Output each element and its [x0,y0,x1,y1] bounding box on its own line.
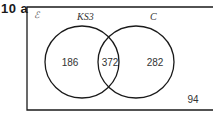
set-ks3-label: KS3 [76,11,94,22]
region-intersection: 372 [102,57,119,68]
region-ks3-only: 186 [62,57,79,68]
universal-set-symbol: ℰ [34,10,41,20]
venn-diagram: ℰ KS3 C 186 372 282 94 [0,0,213,117]
set-c-label: C [150,11,157,22]
region-neither: 94 [187,94,199,105]
region-c-only: 282 [147,57,164,68]
